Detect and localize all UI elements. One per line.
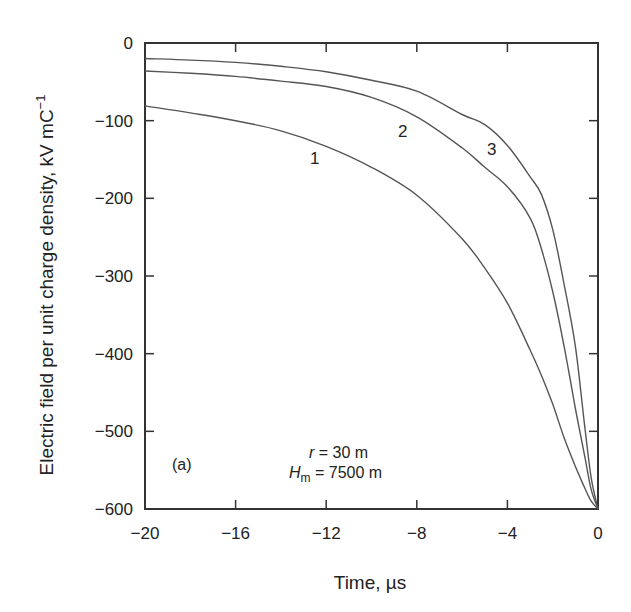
x-tick-label: −16 [221,524,250,543]
y-tick-label: 0 [124,34,133,53]
y-tick-label: −300 [95,267,133,286]
curve-3 [145,59,598,510]
y-axis-title-superscript: −1 [33,95,48,110]
y-tick-label: −600 [95,500,133,519]
annotation-hm-value: = 7500 m [311,464,383,481]
y-tick-label: −500 [95,422,133,441]
x-tick-label: −20 [131,524,160,543]
curve-label-1: 1 [310,149,319,168]
curve-1 [145,106,598,509]
chart-canvas: 0−100−200−300−400−500−600 −20−16−12−8−40… [0,0,631,612]
panel-label: (a) [172,456,192,473]
x-axis-title: Time, µs [334,572,407,593]
curve-2 [145,71,598,509]
annotation-hm-subscript: m [301,471,311,485]
plot-frame [145,43,598,509]
annotation-r-value: = 30 m [314,444,368,461]
chart: 0−100−200−300−400−500−600 −20−16−12−8−40… [0,0,631,612]
annotation-hm: Hm = 7500 m [289,464,382,485]
annotation-r: r = 30 m [309,444,368,461]
y-axis-title-main: Electric field per unit charge density, … [36,109,57,475]
x-tick-label: −12 [312,524,341,543]
y-axis-title: Electric field per unit charge density, … [33,95,57,476]
curve-label-2: 2 [398,122,407,141]
annotation-hm-symbol: H [289,464,301,481]
y-tick-label: −100 [95,112,133,131]
data-curves [145,59,598,510]
curve-label-3: 3 [487,140,496,159]
x-tick-label: 0 [593,524,602,543]
x-tick-label: −4 [498,524,517,543]
y-tick-label: −200 [95,189,133,208]
y-tick-label: −400 [95,345,133,364]
x-tick-label: −8 [407,524,426,543]
